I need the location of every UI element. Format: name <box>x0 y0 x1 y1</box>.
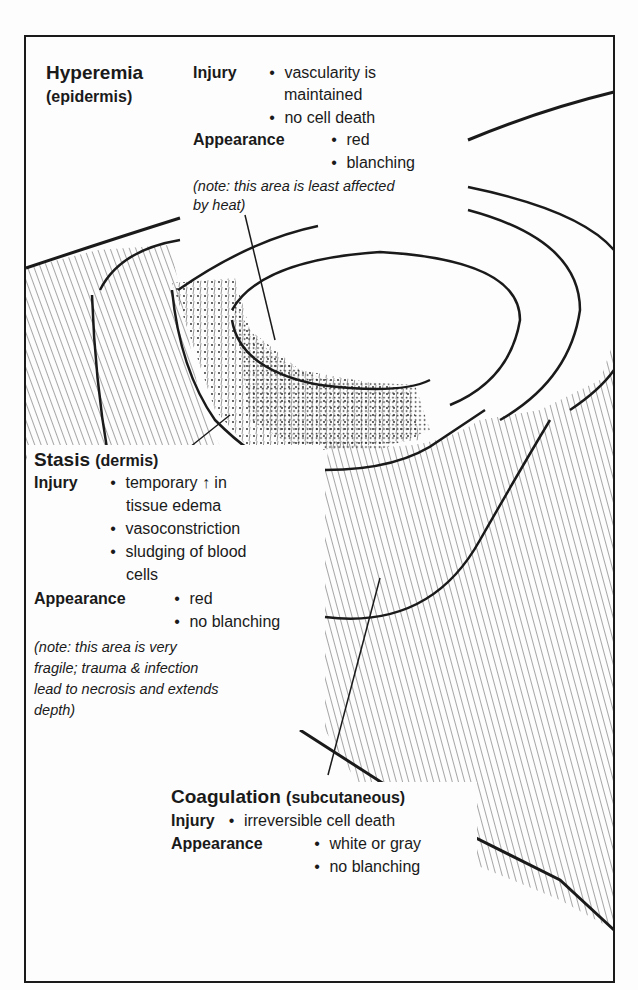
coagulation-appearance-item-2: • no blanching <box>309 858 420 877</box>
inner-stipple <box>232 290 430 450</box>
stasis-appearance-label: Appearance <box>34 590 126 609</box>
coagulation-appearance-label: Appearance <box>171 835 263 854</box>
hyperemia-appearance-label: Appearance <box>193 131 285 150</box>
top-surface-right <box>468 92 614 140</box>
hyperemia-appearance-item-1: • red <box>326 131 370 150</box>
hyperemia-injury-item-1b: maintained <box>284 86 362 105</box>
mid-contour <box>178 226 318 290</box>
coagulation-label: Coagulation (subcutaneous) Injury • irre… <box>165 782 477 892</box>
coagulation-injury-item-1: irreversible cell death <box>244 812 395 829</box>
stasis-injury-item-1: • temporary ↑ in <box>105 474 227 493</box>
hyperemia-label: Hyperemia (epidermis) Injury • vasculari… <box>42 58 472 218</box>
hyperemia-injury-label: Injury <box>193 64 237 83</box>
hyperemia-note-2: by heat) <box>193 196 245 214</box>
hyperemia-leader <box>245 215 275 340</box>
stasis-title: Stasis (dermis) <box>34 449 158 471</box>
ring-2 <box>468 210 580 420</box>
stasis-label: Stasis (dermis) Injury • temporary ↑ in … <box>27 445 323 730</box>
stasis-layer: (dermis) <box>95 452 158 469</box>
hyperemia-injury-item-1: • vascularity is <box>264 64 376 83</box>
stasis-note-3: lead to necrosis and extends <box>34 680 219 698</box>
hyperemia-layer: (epidermis) <box>46 88 132 107</box>
hyperemia-title: Hyperemia <box>46 62 143 84</box>
stasis-injury-item-1b: tissue edema <box>126 497 221 516</box>
stasis-note-1: (note: this area is very <box>34 638 177 656</box>
stasis-note-4: depth) <box>34 701 75 719</box>
stasis-appearance-item-1: • red <box>169 590 213 609</box>
hyperemia-note-1: (note: this area is least affected <box>193 177 395 195</box>
coagulation-title: Coagulation (subcutaneous) <box>171 786 405 808</box>
stasis-injury-item-2: • vasoconstriction <box>105 520 240 539</box>
stasis-appearance-item-2: • no blanching <box>169 613 280 632</box>
coagulation-injury-row: Injury • irreversible cell death <box>171 812 395 831</box>
coagulation-appearance-item-1: • white or gray <box>309 835 421 854</box>
stasis-injury-item-3: • sludging of blood <box>105 543 246 562</box>
stasis-note-2: fragile; trauma & infection <box>34 659 198 677</box>
coagulation-injury-label: Injury <box>171 812 215 829</box>
hyperemia-injury-item-2: • no cell death <box>264 109 375 128</box>
hyperemia-appearance-item-2: • blanching <box>326 154 415 173</box>
stasis-injury-label: Injury <box>34 474 78 493</box>
coagulation-layer: (subcutaneous) <box>286 789 405 806</box>
stasis-injury-item-3b: cells <box>126 566 158 585</box>
